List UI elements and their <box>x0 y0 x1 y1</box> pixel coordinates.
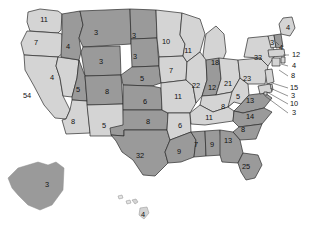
state-ri[interactable] <box>281 57 285 63</box>
state-value-label-sd: 3 <box>133 52 137 61</box>
state-value-label-hi: 4 <box>141 210 145 219</box>
state-or[interactable] <box>21 31 63 57</box>
state-value-label-co: 8 <box>105 87 109 96</box>
state-value-label-az: 8 <box>71 117 75 126</box>
state-value-label-me: 4 <box>286 23 290 32</box>
state-value-label-mn: 10 <box>162 37 170 46</box>
state-value-label-nc: 14 <box>246 112 254 121</box>
state-value-label-id: 4 <box>66 42 70 51</box>
state-value-label-ak: 3 <box>45 180 49 189</box>
state-value-label-al: 9 <box>210 140 214 149</box>
state-value-label-il: 22 <box>192 81 200 90</box>
state-value-label-ma: 12 <box>292 50 300 59</box>
map-canvas: 1175444335885335683210711697911182212218… <box>0 0 309 231</box>
state-nj[interactable] <box>265 69 274 84</box>
state-value-label-ne: 5 <box>140 74 144 83</box>
state-value-label-ok: 8 <box>146 117 150 126</box>
state-value-label-mt: 3 <box>94 28 98 37</box>
state-value-label-nv: 4 <box>50 73 54 82</box>
state-ct[interactable] <box>272 58 280 66</box>
state-value-label-ny: 33 <box>254 53 262 62</box>
state-value-label-fl: 25 <box>242 162 250 171</box>
state-value-label-oh: 21 <box>224 79 232 88</box>
state-mt[interactable] <box>79 9 131 47</box>
state-value-label-pa: 23 <box>243 74 251 83</box>
state-value-label-nd: 3 <box>132 31 136 40</box>
state-value-label-or: 7 <box>34 38 38 47</box>
state-value-label-ut: 5 <box>76 85 80 94</box>
state-value-label-mo: 11 <box>174 92 182 101</box>
state-value-label-wv: 5 <box>236 92 240 101</box>
state-value-label-md: 10 <box>290 99 298 108</box>
state-value-label-va: 13 <box>246 96 254 105</box>
state-value-label-ks: 6 <box>143 97 147 106</box>
state-value-label-nm: 5 <box>102 121 106 130</box>
state-value-label-wa: 11 <box>40 15 48 24</box>
state-value-label-ms: 7 <box>194 140 198 149</box>
state-value-label-mi: 18 <box>211 58 219 67</box>
state-value-label-ri: 4 <box>292 61 296 70</box>
state-value-label-wy: 3 <box>99 57 103 66</box>
state-value-label-dc: 3 <box>292 108 296 117</box>
state-value-label-nh: 4 <box>279 43 283 52</box>
state-value-label-sc: 8 <box>241 125 245 134</box>
state-value-label-ky: 8 <box>221 102 225 111</box>
state-value-label-ia: 7 <box>169 66 173 75</box>
state-value-label-ca: 54 <box>23 91 31 100</box>
state-value-label-la: 9 <box>177 147 181 156</box>
state-value-label-tn: 11 <box>205 113 213 122</box>
state-dc[interactable] <box>264 92 267 95</box>
state-value-label-ar: 6 <box>178 121 182 130</box>
state-value-label-in: 12 <box>208 83 216 92</box>
state-value-label-ct: 8 <box>291 71 295 80</box>
state-value-label-ga: 13 <box>224 136 232 145</box>
state-value-label-wi: 11 <box>184 46 192 55</box>
state-value-label-vt: 3 <box>270 38 274 47</box>
state-value-label-tx: 32 <box>136 151 144 160</box>
us-electoral-map: 1175444335885335683210711697911182212218… <box>0 0 309 231</box>
